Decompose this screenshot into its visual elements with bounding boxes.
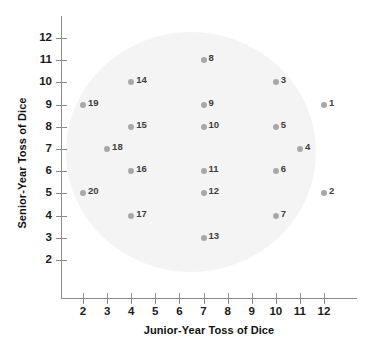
data-point-15[interactable] [128, 124, 134, 130]
y-tick-label-10: 10 [30, 76, 52, 88]
data-point-10[interactable] [201, 124, 207, 130]
y-tick-9 [56, 105, 67, 106]
data-point-label-5: 5 [281, 120, 286, 130]
data-point-label-1: 1 [329, 98, 334, 108]
data-point-label-9: 9 [209, 98, 214, 108]
x-tick-4 [131, 293, 132, 304]
data-point-1[interactable] [321, 102, 327, 108]
data-point-label-11: 11 [209, 164, 219, 174]
y-tick-6 [56, 171, 67, 172]
x-tick-label-7: 7 [192, 306, 216, 318]
data-point-17[interactable] [128, 213, 134, 219]
data-point-label-12: 12 [209, 186, 220, 196]
data-point-label-3: 3 [281, 75, 286, 85]
data-point-5[interactable] [273, 124, 279, 130]
x-tick-label-11: 11 [288, 306, 312, 318]
x-tick-label-5: 5 [143, 306, 167, 318]
x-tick-9 [252, 293, 253, 304]
y-tick-label-6: 6 [30, 165, 52, 177]
data-point-label-7: 7 [281, 209, 286, 219]
data-point-label-8: 8 [209, 53, 214, 63]
x-tick-2 [83, 293, 84, 304]
data-point-2[interactable] [321, 190, 327, 196]
x-tick-label-4: 4 [119, 306, 143, 318]
x-tick-11 [300, 293, 301, 304]
data-point-8[interactable] [201, 57, 207, 63]
y-tick-5 [56, 193, 67, 194]
y-tick-label-3: 3 [30, 232, 52, 244]
x-tick-label-9: 9 [240, 306, 264, 318]
y-tick-8 [56, 127, 67, 128]
y-tick-7 [56, 149, 67, 150]
x-tick-3 [107, 293, 108, 304]
x-axis-title: Junior-Year Toss of Dice [61, 324, 357, 336]
y-tick-label-12: 12 [30, 32, 52, 44]
plot-background-ellipse [66, 32, 316, 272]
data-point-label-13: 13 [209, 231, 220, 241]
data-point-9[interactable] [201, 102, 207, 108]
data-point-label-2: 2 [329, 186, 334, 196]
data-point-label-18: 18 [112, 142, 123, 152]
data-point-19[interactable] [80, 102, 86, 108]
x-tick-6 [179, 293, 180, 304]
data-point-12[interactable] [201, 190, 207, 196]
data-point-label-16: 16 [136, 164, 147, 174]
data-point-11[interactable] [201, 168, 207, 174]
data-point-label-19: 19 [88, 98, 99, 108]
data-point-label-4: 4 [305, 142, 310, 152]
y-tick-10 [56, 82, 67, 83]
y-tick-2 [56, 260, 67, 261]
data-point-13[interactable] [201, 235, 207, 241]
y-tick-label-9: 9 [30, 99, 52, 111]
data-point-label-17: 17 [136, 209, 147, 219]
x-tick-label-6: 6 [167, 306, 191, 318]
y-tick-label-4: 4 [30, 210, 52, 222]
y-tick-12 [56, 38, 67, 39]
y-axis-title: Senior-Year Toss of Dice [16, 63, 28, 263]
y-tick-label-5: 5 [30, 187, 52, 199]
x-tick-label-3: 3 [95, 306, 119, 318]
x-tick-8 [228, 293, 229, 304]
y-tick-11 [56, 60, 67, 61]
data-point-label-20: 20 [88, 186, 99, 196]
y-tick-3 [56, 238, 67, 239]
y-tick-label-8: 8 [30, 121, 52, 133]
y-tick-label-11: 11 [30, 54, 52, 66]
data-point-label-14: 14 [136, 75, 147, 85]
y-axis-line [61, 16, 62, 299]
y-tick-4 [56, 216, 67, 217]
x-tick-label-2: 2 [71, 306, 95, 318]
data-point-7[interactable] [273, 213, 279, 219]
x-tick-12 [324, 293, 325, 304]
scatter-chart: 23456789101112 23456789101112 1234567891… [0, 0, 365, 344]
x-tick-label-12: 12 [312, 306, 336, 318]
x-tick-label-10: 10 [264, 306, 288, 318]
data-point-4[interactable] [297, 146, 303, 152]
data-point-label-6: 6 [281, 164, 286, 174]
data-point-6[interactable] [273, 168, 279, 174]
x-tick-7 [204, 293, 205, 304]
data-point-label-15: 15 [136, 120, 147, 130]
y-tick-label-2: 2 [30, 254, 52, 266]
x-axis-line [61, 298, 357, 299]
y-tick-label-7: 7 [30, 143, 52, 155]
x-tick-5 [155, 293, 156, 304]
data-point-label-10: 10 [209, 120, 220, 130]
x-tick-label-8: 8 [216, 306, 240, 318]
x-tick-10 [276, 293, 277, 304]
